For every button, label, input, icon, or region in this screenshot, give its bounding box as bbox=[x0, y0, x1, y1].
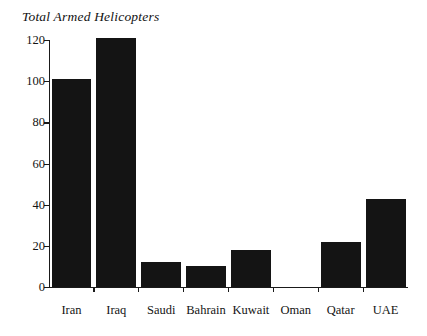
x-axis-category-label: Iraq bbox=[94, 303, 139, 318]
y-tick-label: 40 bbox=[33, 198, 46, 211]
y-tick-label: 120 bbox=[26, 34, 45, 47]
x-axis-category-label: Oman bbox=[273, 303, 318, 318]
x-axis-category-label: Kuwait bbox=[229, 303, 274, 318]
y-tick-label: 0 bbox=[39, 281, 45, 294]
y-tick-label: 20 bbox=[33, 239, 46, 252]
chart-page: Total Armed Helicopters 020406080100120 … bbox=[0, 0, 427, 336]
x-axis-category-label: Saudi bbox=[139, 303, 184, 318]
y-tick-label: 60 bbox=[33, 157, 46, 170]
x-axis-category-label: Qatar bbox=[318, 303, 363, 318]
x-axis-category-label: Iran bbox=[49, 303, 94, 318]
x-axis-category-label: UAE bbox=[363, 303, 408, 318]
x-axis-category-label: Bahrain bbox=[184, 303, 229, 318]
y-tick-label: 80 bbox=[33, 116, 46, 129]
y-tick-label: 100 bbox=[26, 75, 45, 88]
x-axis-labels: IranIraqSaudiBahrainKuwaitOmanQatarUAE bbox=[49, 0, 408, 336]
